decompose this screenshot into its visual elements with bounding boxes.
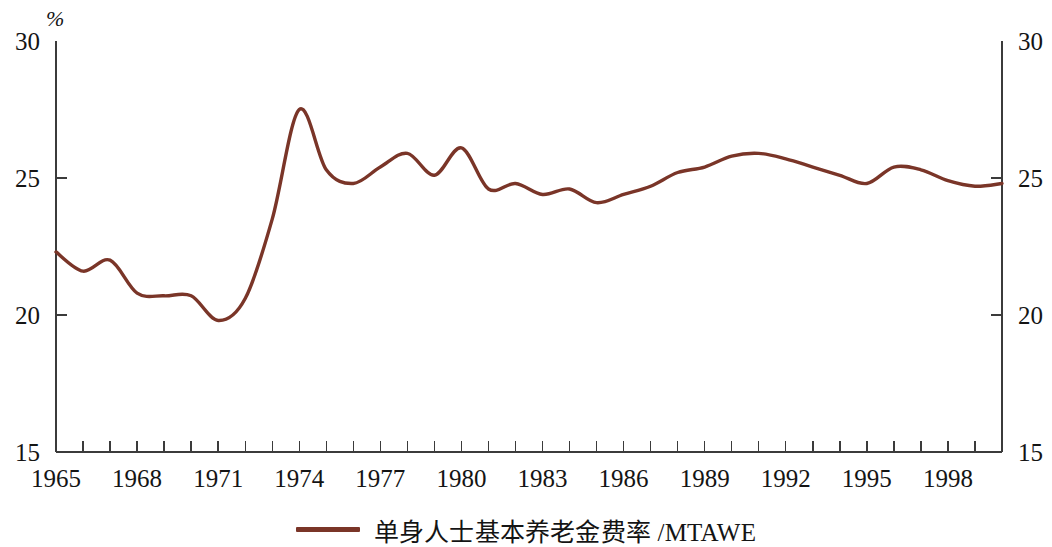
y-axis-right-tick-label: 25 (1018, 165, 1043, 192)
x-axis-tick-label: 1998 (923, 465, 973, 492)
legend-line-swatch (296, 527, 360, 532)
right-axis-ticks (991, 178, 1002, 315)
y-axis-left-tick-label: 15 (15, 439, 40, 466)
y-axis-left-tick-label: 25 (15, 165, 40, 192)
x-axis-tick-label: 1974 (274, 465, 325, 492)
x-axis-tick-label: 1992 (761, 465, 811, 492)
y-axis-right-tick-label: 30 (1018, 28, 1043, 55)
chart-legend: 单身人士基本养老金费率 /MTAWE (0, 512, 1052, 547)
y-axis-left-tick-label: 20 (15, 302, 40, 329)
x-axis-tick-label: 1983 (518, 465, 568, 492)
x-axis-tick-label: 1980 (436, 465, 486, 492)
chart-container: 15202530 15202530 1965196819711974197719… (0, 0, 1052, 547)
y-axis-unit-label: % (46, 6, 64, 31)
x-axis-tick-label: 1995 (842, 465, 892, 492)
x-axis-tick-labels: 1965196819711974197719801983198619891992… (31, 465, 973, 492)
x-axis-tick-label: 1986 (599, 465, 649, 492)
right-axis-tick-labels: 15202530 (1018, 28, 1043, 466)
x-axis-tick-label: 1971 (193, 465, 243, 492)
y-axis-right-tick-label: 15 (1018, 439, 1043, 466)
x-axis-tick-label: 1977 (355, 465, 405, 492)
line-chart-svg: 15202530 15202530 1965196819711974197719… (0, 0, 1052, 547)
left-axis-tick-labels: 15202530 (15, 28, 40, 466)
legend-label: 单身人士基本养老金费率 /MTAWE (374, 512, 756, 547)
x-axis-tick-label: 1965 (31, 465, 81, 492)
data-series-group (56, 109, 1002, 321)
x-axis-tick-label: 1989 (680, 465, 730, 492)
y-axis-left-tick-label: 30 (15, 28, 40, 55)
series-line-path (56, 109, 1002, 321)
left-axis-ticks (56, 178, 67, 315)
x-axis-tick-label: 1968 (112, 465, 162, 492)
y-axis-right-tick-label: 20 (1018, 302, 1043, 329)
x-axis-ticks (83, 441, 975, 452)
